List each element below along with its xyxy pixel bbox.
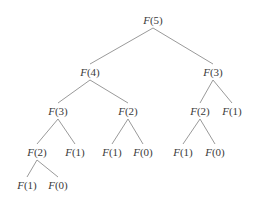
tree-edge — [27, 160, 37, 177]
tree-edge — [213, 80, 232, 103]
node-f3-right: F(3) — [203, 67, 223, 78]
node-f1: F(1) — [17, 180, 37, 191]
node-f0: F(0) — [205, 147, 225, 158]
node-f1: F(1) — [65, 147, 85, 158]
node-f4: F(4) — [80, 67, 100, 78]
node-f2: F(2) — [190, 106, 210, 117]
tree-edge — [58, 80, 90, 103]
node-f2: F(2) — [118, 106, 138, 117]
tree-edges — [0, 0, 255, 203]
tree-edge — [200, 80, 213, 103]
tree-edge — [200, 119, 215, 144]
node-f0: F(0) — [48, 180, 68, 191]
tree-edge — [153, 28, 213, 64]
node-f1: F(1) — [102, 147, 122, 158]
tree-edge — [112, 119, 128, 144]
tree-edge — [58, 119, 75, 144]
node-f5-root: F(5) — [143, 15, 163, 26]
tree-edge — [90, 28, 153, 64]
tree-edge — [37, 160, 58, 177]
node-f3-left: F(3) — [48, 106, 68, 117]
node-f0: F(0) — [133, 147, 153, 158]
node-f1: F(1) — [222, 106, 242, 117]
fibonacci-recursion-tree: F(5) F(4) F(3) F(3) F(2) F(2) F(1) F(2) … — [0, 0, 255, 203]
tree-edge — [183, 119, 200, 144]
tree-edge — [128, 119, 143, 144]
node-f1: F(1) — [173, 147, 193, 158]
node-f2: F(2) — [27, 147, 47, 158]
tree-edge — [90, 80, 128, 103]
tree-edge — [37, 119, 58, 144]
